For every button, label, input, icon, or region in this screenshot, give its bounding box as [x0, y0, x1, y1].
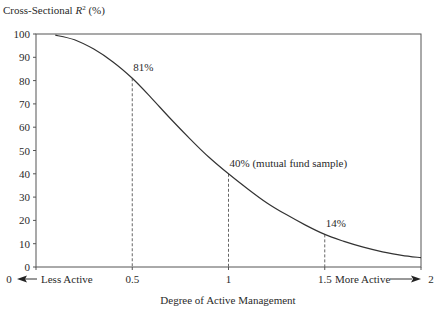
r-squared-chart: Cross-Sectional R2 (%) 01020304050607080… — [0, 0, 440, 311]
point-annotations: 81%40% (mutual fund sample)14% — [133, 61, 347, 229]
y-tick-label: 0 — [25, 261, 31, 273]
annotation-label: 14% — [326, 217, 346, 229]
y-axis-title: Cross-Sectional R2 (%) — [3, 4, 105, 17]
x-tick-label: 1.5 — [318, 273, 332, 285]
more-active-label: More Active — [335, 273, 390, 285]
plot-frame — [36, 34, 421, 267]
y-axis-ticks: 0102030405060708090100 — [14, 28, 37, 273]
x-axis-label: Degree of Active Management — [160, 294, 295, 306]
y-axis-label: Cross-Sectional R2 (%) — [3, 4, 105, 17]
annotation-label: 81% — [133, 61, 153, 73]
y-tick-label: 50 — [19, 145, 31, 157]
x-tick-label: 2 — [428, 273, 434, 285]
reference-dashed-lines — [132, 78, 325, 267]
y-tick-label: 30 — [19, 191, 31, 203]
x-direction-annotations: Less ActiveMore Active — [17, 273, 421, 285]
y-tick-label: 60 — [19, 121, 31, 133]
y-tick-label: 100 — [14, 28, 31, 40]
y-tick-label: 40 — [19, 168, 31, 180]
x-tick-label: 1 — [226, 273, 232, 285]
arrow-right-icon — [411, 276, 421, 283]
y-tick-label: 80 — [19, 75, 31, 87]
y-tick-label: 70 — [19, 98, 31, 110]
y-tick-label: 10 — [19, 238, 31, 250]
annotation-label: 40% (mutual fund sample) — [230, 157, 348, 170]
r-squared-curve — [55, 35, 421, 258]
y-tick-label: 20 — [19, 214, 31, 226]
y-tick-label: 90 — [19, 51, 31, 63]
x-tick-label: 0 — [6, 273, 12, 285]
x-tick-label: 0.5 — [125, 273, 139, 285]
less-active-label: Less Active — [41, 273, 93, 285]
